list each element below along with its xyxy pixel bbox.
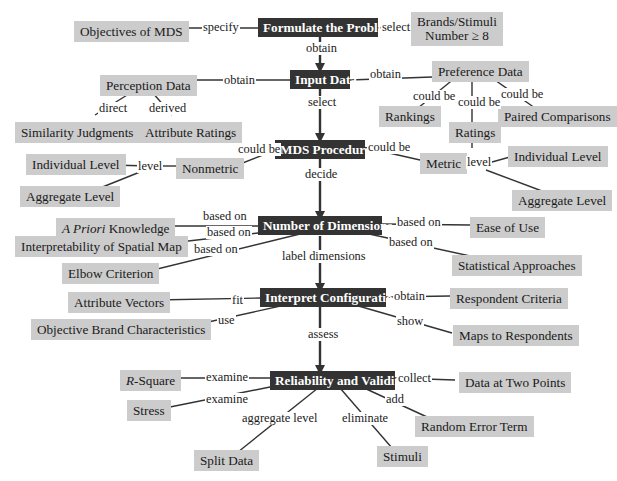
node-ratings: Ratings <box>449 122 501 143</box>
link-label-examine-rsquare: examine <box>205 371 249 384</box>
link-label-collect: collect <box>397 372 432 385</box>
node-brands-stimuli: Brands/Stimuli Number ≥ 8 <box>411 12 503 46</box>
link-label-select-brands: select <box>381 21 411 34</box>
node-perception-data: Perception Data <box>100 75 197 96</box>
node-respondent-criteria: Respondent Criteria <box>450 288 568 309</box>
node-random-error-term: Random Error Term <box>415 416 534 437</box>
a-priori-rest: Knowledge <box>105 221 169 236</box>
link-label-could-be-metric: could be <box>367 141 411 154</box>
node-paired-comparisons: Paired Comparisons <box>498 106 617 127</box>
link-label-fit: fit <box>231 294 244 307</box>
node-ease-of-use: Ease of Use <box>470 217 545 238</box>
link-label-could-be-rankings: could be <box>412 90 456 103</box>
node-nonmetric-individual-level: Individual Level <box>26 154 126 175</box>
node-statistical-approaches: Statistical Approaches <box>452 255 582 276</box>
link-label-aggregate-level: aggregate level <box>241 412 318 425</box>
link-label-based-on-ease: based on <box>396 216 442 229</box>
node-preference-data: Preference Data <box>432 61 529 82</box>
link-label-decide: decide <box>304 168 338 181</box>
node-nonmetric: Nonmetric <box>176 158 244 179</box>
link-label-obtain-input: obtain <box>305 42 338 55</box>
r-italic: R <box>126 373 134 388</box>
link-label-metric-level: level <box>466 156 492 169</box>
node-stress: Stress <box>127 400 171 421</box>
link-label-assess: assess <box>307 328 339 341</box>
link-label-label-dimensions: label dimensions <box>281 250 367 263</box>
node-interpret-configuration: Interpret Configuration <box>260 288 386 307</box>
node-attribute-ratings: Attribute Ratings <box>139 122 242 143</box>
r-square-rest: -Square <box>134 373 175 388</box>
brands-line-1: Brands/Stimuli <box>417 15 497 29</box>
node-attribute-vectors: Attribute Vectors <box>68 292 170 313</box>
brands-line-2: Number ≥ 8 <box>417 29 497 43</box>
node-formulate-the-problem: Formulate the Problem <box>258 18 378 37</box>
node-objective-brand-characteristics: Objective Brand Characteristics <box>31 319 211 340</box>
link-label-show: show <box>396 315 424 328</box>
link-label-nonmetric-level: level <box>137 160 163 173</box>
a-priori-italic: A Priori <box>62 221 105 236</box>
node-input-data: Input Data <box>290 70 350 89</box>
link-label-based-on-statistical: based on <box>388 236 434 249</box>
link-label-direct: direct <box>98 102 128 115</box>
link-label-could-be-nonmetric: could be <box>237 143 281 156</box>
node-similarity-judgments: Similarity Judgments <box>15 122 139 143</box>
link-label-select-procedure: select <box>307 96 337 109</box>
node-mds-procedure: MDS Procedure <box>275 140 365 159</box>
link-label-obtain-preference: obtain <box>369 68 402 81</box>
node-interpretability-of-spatial-map: Interpretability of Spatial Map <box>15 236 188 257</box>
node-stimuli: Stimuli <box>377 446 428 467</box>
link-label-based-on-elbow: based on <box>193 243 239 256</box>
link-label-based-on-apriori: based on <box>202 210 248 223</box>
node-split-data: Split Data <box>194 450 259 471</box>
node-data-at-two-points: Data at Two Points <box>459 372 571 393</box>
link-label-use: use <box>217 314 236 327</box>
link-label-obtain-perception: obtain <box>223 74 256 87</box>
node-metric-aggregate-level: Aggregate Level <box>512 190 612 211</box>
link-label-add: add <box>385 393 405 406</box>
node-metric: Metric <box>420 153 467 174</box>
link-label-examine-stress: examine <box>205 393 249 406</box>
node-elbow-criterion: Elbow Criterion <box>62 263 159 284</box>
node-maps-to-respondents: Maps to Respondents <box>453 325 579 346</box>
concept-map-canvas: Formulate the Problem Input Data MDS Pro… <box>0 0 617 481</box>
link-label-obtain-criteria: obtain <box>393 290 426 303</box>
link-label-derived: derived <box>148 102 187 115</box>
link-label-specify: specify <box>202 21 240 34</box>
node-metric-individual-level: Individual Level <box>508 146 608 167</box>
node-number-of-dimensions: Number of Dimensions <box>258 216 382 235</box>
node-reliability-and-validity: Reliability and Validity <box>270 371 395 390</box>
link-label-based-on-interpretability: based on <box>206 226 252 239</box>
node-nonmetric-aggregate-level: Aggregate Level <box>20 186 120 207</box>
link-label-could-be-ratings: could be <box>457 96 501 109</box>
node-rankings: Rankings <box>379 106 441 127</box>
node-objectives-of-mds: Objectives of MDS <box>74 21 189 42</box>
node-r-square: R-Square <box>120 370 181 391</box>
link-label-eliminate: eliminate <box>341 412 389 425</box>
link-label-could-be-paired: could be <box>500 88 544 101</box>
